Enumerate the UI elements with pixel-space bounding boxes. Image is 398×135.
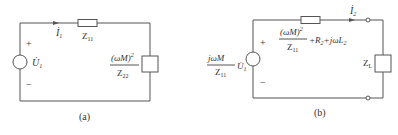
terminal-bottom-icon	[366, 96, 370, 100]
reflected-denominator: Z22	[117, 68, 129, 79]
current-i1-label: İ1	[55, 27, 62, 39]
plus-sign: +	[260, 37, 266, 48]
plus-sign: +	[26, 38, 32, 49]
load-zl-label: ZL	[363, 58, 373, 69]
series-numerator: (ωM)2	[280, 26, 303, 37]
source-u1-label: U̇1	[237, 61, 247, 72]
voltage-source-icon	[13, 55, 27, 69]
resistor-series-icon	[301, 17, 320, 24]
minus-sign: −	[26, 79, 32, 90]
source-coef-numerator: jωM	[207, 53, 225, 63]
reflected-numerator: (ωM)2	[111, 52, 134, 63]
current-arrow-icon	[349, 18, 355, 22]
source-coef-denominator: Z11	[215, 67, 226, 78]
circuit-b-labels: İ2 + − (ωM)2 Z11 +R2+jωL2 jωM Z11 U̇1 ZL…	[207, 5, 373, 119]
current-arrow-icon	[53, 21, 59, 25]
minus-sign: −	[260, 77, 266, 88]
terminal-top-icon	[366, 18, 370, 22]
circuit-diagram: İ1 Z11 + − U̇1 (ωM)2 Z22 (a) İ2 + − (ωM)…	[0, 0, 398, 135]
caption-a: (a)	[79, 111, 90, 123]
current-i2-label: İ2	[349, 5, 356, 17]
reflected-impedance-box-icon	[142, 56, 158, 72]
voltage-source-icon	[246, 52, 260, 66]
resistor-z11-icon	[78, 20, 97, 27]
circuit-a-labels: İ1 Z11 + − U̇1 (ωM)2 Z22 (a)	[26, 27, 134, 123]
z11-label: Z11	[82, 31, 93, 42]
source-u1-label: U̇1	[32, 57, 42, 69]
caption-b: (b)	[314, 107, 326, 119]
load-zl-box-icon	[375, 55, 391, 72]
series-tail: +R2+jωL2	[309, 35, 347, 46]
series-denominator: Z11	[287, 42, 298, 53]
